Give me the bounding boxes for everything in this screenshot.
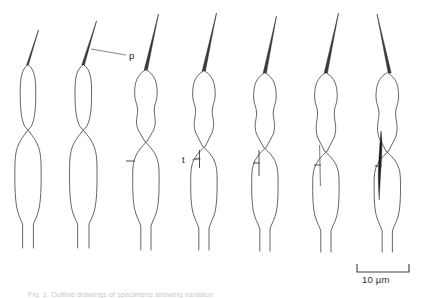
specimen-7-dark-blade: [378, 131, 382, 200]
specimen-4-lower-chamber-left: [191, 146, 206, 250]
specimen-7-process: [377, 14, 391, 73]
figure-root: p t 10 µm Fig. 1. Outline drawings of sp…: [0, 0, 426, 298]
specimen-1-upper-chamber: [20, 65, 30, 133]
scale-bar: [357, 264, 409, 272]
label-p-leader-line: [91, 49, 126, 55]
specimen-6-upper-chamber-left: [315, 73, 326, 151]
specimen-4-lower-chamber-right: [202, 146, 217, 250]
specimen-2-lower-chamber-left: [70, 133, 82, 249]
specimen-3-upper-chamber-right: [147, 70, 158, 141]
specimen-3-lower-chamber-left: [133, 141, 148, 250]
specimen-4: [191, 13, 217, 250]
specimen-5-upper-chamber-right: [266, 73, 277, 147]
specimen-6: [313, 13, 339, 252]
specimen-1-process: [27, 30, 39, 65]
specimen-7-lower-chamber-right: [386, 151, 401, 252]
label-p: p: [129, 50, 134, 61]
specimen-1: [15, 30, 41, 248]
specimen-5-process: [263, 16, 276, 73]
specimen-6-transverse-tick-needle: [320, 145, 321, 186]
scale-bar-label: 10 µm: [362, 274, 390, 285]
figure-caption: Fig. 1. Outline drawings of specimens sh…: [28, 290, 408, 298]
label-t: t: [182, 154, 185, 165]
specimen-2-upper-chamber-left: [75, 65, 85, 133]
specimen-7-upper-chamber-right: [388, 73, 399, 151]
specimen-6-lower-chamber-right: [325, 151, 340, 252]
specimen-6-upper-chamber-right: [327, 73, 338, 151]
specimen-1-lower-chamber-right: [30, 133, 41, 249]
specimen-3-process: [144, 14, 158, 70]
specimen-2-lower-chamber-right: [85, 133, 97, 249]
specimen-1-upper-chamber-right: [26, 65, 36, 133]
specimen-2-process: [82, 21, 97, 65]
specimen-2: [70, 21, 98, 248]
specimen-2-upper-chamber-right: [81, 65, 91, 133]
specimen-5: [252, 16, 278, 251]
specimen-plate: [0, 0, 426, 298]
specimen-1-lower-chamber-left: [15, 133, 26, 249]
specimen-3-upper-chamber-left: [135, 70, 146, 141]
specimen-6-process: [324, 13, 338, 73]
specimen-5-lower-chamber-right: [263, 147, 278, 251]
specimen-3-lower-chamber-right: [145, 141, 160, 250]
specimen-7: [374, 14, 400, 252]
specimen-4-upper-chamber-left: [193, 71, 204, 146]
specimen-4-upper-chamber-right: [205, 71, 216, 146]
specimen-4-process: [202, 13, 216, 71]
specimen-5-upper-chamber-left: [254, 73, 265, 147]
